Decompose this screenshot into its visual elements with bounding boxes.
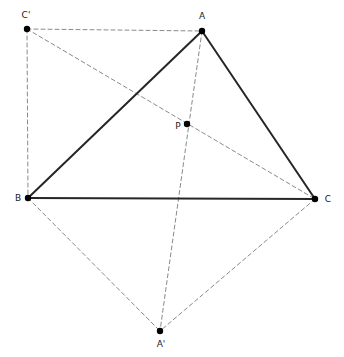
vertex-point-Aprime — [157, 328, 163, 334]
vertex-point-A — [199, 28, 205, 34]
vertex-point-Cprime — [24, 26, 30, 32]
geometry-canvas: ABCPA'C' — [0, 0, 344, 357]
vertex-label-Cprime: C' — [22, 10, 31, 20]
vertex-point-C — [312, 196, 318, 202]
vertex-label-C: C — [325, 194, 331, 204]
vertex-label-Aprime: A' — [157, 339, 166, 349]
vertex-label-A: A — [199, 11, 206, 21]
vertex-label-B: B — [15, 193, 21, 203]
vertex-label-P: P — [175, 121, 181, 131]
figure-background — [0, 0, 344, 357]
solid-segment-BC — [28, 198, 315, 199]
vertex-point-P — [184, 121, 190, 127]
vertex-point-B — [25, 195, 31, 201]
geometry-figure: ABCPA'C' — [0, 0, 344, 357]
